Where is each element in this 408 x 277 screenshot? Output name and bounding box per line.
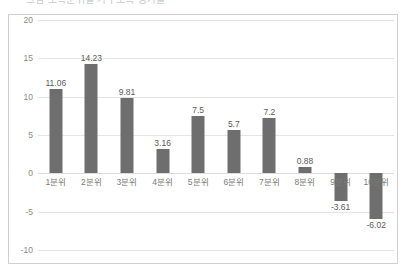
y-axis-tick-label: 15 [24, 53, 33, 63]
bar [85, 64, 98, 173]
chart-frame: 20151050-5-1011.061분위14.232분위9.813분위3.16… [8, 14, 398, 264]
bar-group: 7.55분위 [180, 20, 216, 250]
bar-value-label: 7.5 [192, 105, 204, 115]
bar [298, 167, 311, 174]
x-axis-category-label: 8분위 [295, 175, 316, 187]
bar-value-label: 14.23 [81, 53, 102, 63]
y-axis-tick-label: 10 [24, 92, 33, 102]
bar-value-label: -3.61 [331, 202, 350, 212]
x-axis-category-label: 7분위 [259, 175, 280, 187]
gridline--10: -10 [38, 250, 394, 251]
clipped-title-strip: 그림 소득분위별 가구소득 증가율 [0, 0, 408, 13]
x-axis-category-label: 2분위 [81, 175, 102, 187]
x-axis-category-label: 5분위 [188, 175, 209, 187]
y-axis-tick-label: 5 [28, 130, 33, 140]
x-axis-category-label: 3분위 [117, 175, 138, 187]
bar-value-label: 9.81 [119, 87, 136, 97]
bar-group: 11.061분위 [38, 20, 74, 250]
bar-group: 7.27분위 [252, 20, 288, 250]
x-axis-category-label: 10분위 [363, 175, 388, 187]
bar-value-label: -6.02 [367, 220, 386, 230]
bar-series: 11.061분위14.232분위9.813분위3.164분위7.55분위5.76… [38, 20, 394, 250]
plot-area: 20151050-5-1011.061분위14.232분위9.813분위3.16… [38, 20, 394, 250]
y-axis-tick-label: -10 [21, 245, 33, 255]
bar [227, 130, 240, 174]
bar-group: 5.76분위 [216, 20, 252, 250]
x-axis-category-label: 4분위 [152, 175, 173, 187]
bar-group: -3.619분위 [323, 20, 359, 250]
bar [120, 98, 133, 173]
x-axis-category-label: 9분위 [330, 175, 351, 187]
bar-group: 14.232분위 [74, 20, 110, 250]
y-axis-tick-label: 0 [28, 168, 33, 178]
bar-group: 9.813분위 [109, 20, 145, 250]
y-axis-tick-label: -5 [25, 207, 33, 217]
chart-screenshot: 그림 소득분위별 가구소득 증가율 20151050-5-1011.061분위1… [0, 0, 408, 277]
bar-value-label: 5.7 [228, 119, 240, 129]
bar-group: 0.888분위 [287, 20, 323, 250]
bar [192, 116, 205, 174]
bar [156, 149, 169, 173]
x-axis-category-label: 1분위 [45, 175, 66, 187]
y-axis-tick-label: 20 [24, 15, 33, 25]
bar-group: -6.0210분위 [358, 20, 394, 250]
x-axis-category-label: 6분위 [223, 175, 244, 187]
bar-value-label: 11.06 [45, 78, 66, 88]
bar-value-label: 7.2 [263, 107, 275, 117]
bar-value-label: 3.16 [154, 138, 171, 148]
bar-value-label: 0.88 [297, 156, 314, 166]
bar [263, 118, 276, 173]
chart-title: 그림 소득분위별 가구소득 증가율 [26, 0, 165, 6]
bar-group: 3.164분위 [145, 20, 181, 250]
bar [49, 89, 62, 174]
